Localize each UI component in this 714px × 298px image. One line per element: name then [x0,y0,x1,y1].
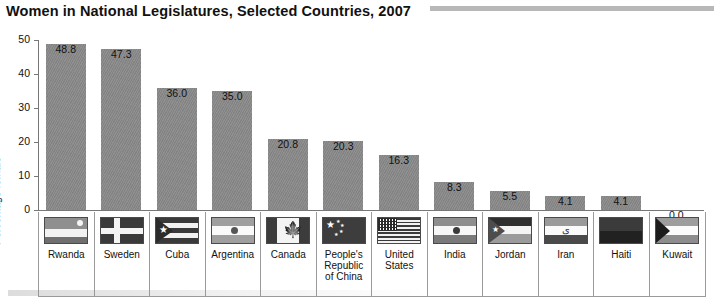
flag-band [434,235,476,243]
country-label: Canada [271,249,306,260]
country-label: Jordan [495,249,526,260]
flag-star [389,225,390,226]
bar-column [101,36,141,210]
maple-leaf-icon: 🍁 [283,222,303,238]
flag-star [389,222,390,223]
flag-star [386,219,387,220]
flag-emblem [231,227,238,234]
bar [46,44,86,210]
flag-star [395,228,396,229]
country-cell[interactable]: Kuwait [650,212,706,296]
flag-star [380,225,381,226]
flag-star: ★ [159,225,168,235]
flag-band [45,237,87,243]
flag-star [392,225,393,226]
flag-star [386,228,387,229]
flag-star [392,222,393,223]
country-cell[interactable]: United States [372,212,428,296]
flag-india-icon [433,217,477,244]
bar-column [656,36,696,210]
bar-value-label: 20.8 [268,138,308,150]
bar-value-label: 47.3 [101,48,141,60]
title-rule [430,6,714,11]
country-strip: RwandaSweden★CubaArgentina🍁Canada★★★★★Pe… [38,212,706,297]
flag-triangle [656,218,670,243]
flag-star [380,219,381,220]
flag-star [383,219,384,220]
country-label: Kuwait [662,249,692,260]
country-cell[interactable]: Argentina [206,212,262,296]
flag-united-states-icon [377,217,421,244]
flag-stripe [114,218,120,243]
flag-rwanda-icon [44,217,88,244]
flag-band [378,232,420,234]
flag-band [600,218,642,231]
bar-column [268,36,308,210]
flag-star [389,219,390,220]
y-axis-tick-label: 40 [6,67,30,79]
flag-band [378,240,420,242]
flag-cuba-icon: ★ [155,217,199,244]
bar [212,91,252,210]
country-label: Haiti [611,249,631,260]
flag-star [389,228,390,229]
flag-star [383,222,384,223]
bar-column [46,36,86,210]
country-cell[interactable]: 🍁Canada [261,212,317,296]
flag-star [383,228,384,229]
flag-star: ★ [334,232,338,237]
country-label: India [444,249,466,260]
flag-star [395,219,396,220]
country-cell[interactable]: ★★★★★People's Republic of China [317,212,373,296]
cut-off-footnote [8,290,428,296]
flag-star [395,225,396,226]
country-cell[interactable]: Sweden [95,212,151,296]
flag-star [383,225,384,226]
country-cell[interactable]: ★Jordan [483,212,539,296]
flag-band [600,231,642,243]
country-cell[interactable]: ★Cuba [150,212,206,296]
flag-band [212,235,254,243]
bar-value-label: 20.3 [323,140,363,152]
flag-sweden-icon [100,217,144,244]
bar-value-label: 35.0 [212,90,252,102]
bar-value-label: 4.1 [601,195,641,207]
flag-stripe [267,218,277,243]
flag-canada-icon: 🍁 [266,217,310,244]
y-axis-tick-label: 10 [6,169,30,181]
bar-column [379,36,419,210]
flag-star [395,222,396,223]
country-label: Argentina [211,249,254,260]
country-label: Cuba [165,249,189,260]
y-axis-tick-label: 0 [6,203,30,215]
bar-value-label: 8.3 [434,181,474,193]
country-label: Rwanda [48,249,85,260]
flag-emblem: ی [562,225,570,235]
country-label: Iran [557,249,574,260]
y-axis-tick-label: 20 [6,135,30,147]
bar-column [490,36,530,210]
country-cell[interactable]: Haiti [594,212,650,296]
x-axis-line [38,210,704,211]
flag-band [434,218,476,226]
country-label: United States [385,249,414,271]
flag-star [386,222,387,223]
country-cell[interactable]: India [428,212,484,296]
flag-band [212,218,254,226]
bar [157,88,197,210]
flag-star [392,219,393,220]
bar-column [323,36,363,210]
flag-haiti-icon [599,217,643,244]
bar-value-label: 36.0 [157,87,197,99]
bar-value-label: 16.3 [379,154,419,166]
flag-kuwait-icon [655,217,699,244]
y-axis-title: Percentage female [0,157,2,245]
country-cell[interactable]: یIran [539,212,595,296]
bar-value-label: 5.5 [490,190,530,202]
flag-star: ★ [326,220,335,230]
flag-band [45,229,87,237]
flag-band [545,235,587,243]
country-cell[interactable]: Rwanda [39,212,95,296]
bar-column [601,36,641,210]
flag-star: ★ [492,226,499,234]
